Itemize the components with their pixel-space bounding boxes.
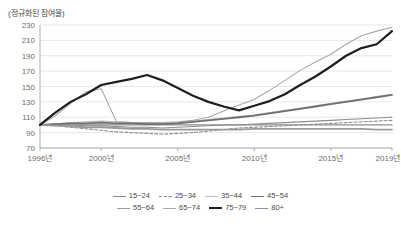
legend-swatch-icon: [163, 208, 176, 209]
plot-area: 23021019017015013011090701996년2000년2005년…: [0, 20, 401, 170]
legend-item-35-44[interactable]: 35~44: [205, 192, 242, 200]
legend-label: 35~44: [221, 192, 242, 200]
y-axis-tick-label: 150: [22, 83, 36, 92]
legend-label: 45~54: [267, 192, 288, 200]
legend-label: 80+: [271, 204, 284, 212]
x-axis-tick-label: 2000년: [89, 153, 114, 163]
legend-swatch-icon: [255, 208, 268, 209]
legend-item-45-54[interactable]: 45~54: [251, 192, 288, 200]
legend-swatch-icon: [205, 196, 218, 197]
legend-item-75-79[interactable]: 75~79: [209, 204, 246, 212]
line-chart-svg: 23021019017015013011090701996년2000년2005년…: [0, 20, 401, 170]
legend-swatch-icon: [117, 208, 130, 209]
y-axis-title: (정규화된 참여율): [8, 7, 65, 18]
legend-label: 65~74: [179, 204, 200, 212]
legend-row-bottom: 55~6465~7475~7980+: [0, 202, 401, 214]
x-axis-tick-label: 2010년: [242, 153, 267, 163]
chart-legend: 15~2425~3435~4445~54 55~6465~7475~7980+: [0, 190, 401, 214]
legend-swatch-icon: [159, 196, 172, 197]
y-axis-tick-label: 210: [22, 36, 36, 45]
x-axis-tick-label: 2015년: [318, 153, 343, 163]
legend-item-55-64[interactable]: 55~64: [117, 204, 154, 212]
y-axis-tick-label: 190: [22, 52, 36, 61]
legend-label: 55~64: [133, 204, 154, 212]
x-axis-tick-label: 2005년: [165, 153, 190, 163]
chart-container: (정규화된 참여율) 23021019017015013011090701996…: [0, 0, 401, 229]
legend-label: 25~34: [175, 192, 196, 200]
legend-swatch-icon: [251, 196, 264, 197]
series-line-75-79: [40, 31, 392, 125]
y-axis-tick-label: 130: [22, 98, 36, 107]
legend-label: 75~79: [225, 204, 246, 212]
series-line-65-74: [40, 27, 392, 125]
y-axis-tick-label: 70: [26, 144, 35, 153]
legend-swatch-icon: [113, 196, 126, 197]
legend-swatch-icon: [209, 207, 222, 209]
x-axis-end-label: 2019년: [376, 153, 401, 163]
legend-label: 15~24: [129, 192, 150, 200]
legend-row-top: 15~2425~3435~4445~54: [0, 190, 401, 202]
y-axis-tick-label: 170: [22, 67, 36, 76]
y-axis-tick-label: 230: [22, 21, 36, 30]
legend-item-15-24[interactable]: 15~24: [113, 192, 150, 200]
legend-item-80-[interactable]: 80+: [255, 204, 284, 212]
y-axis-tick-label: 110: [22, 113, 35, 122]
x-axis-tick-label: 1996년: [28, 153, 53, 163]
y-axis-tick-label: 90: [26, 129, 35, 138]
legend-item-25-34[interactable]: 25~34: [159, 192, 196, 200]
legend-item-65-74[interactable]: 65~74: [163, 204, 200, 212]
